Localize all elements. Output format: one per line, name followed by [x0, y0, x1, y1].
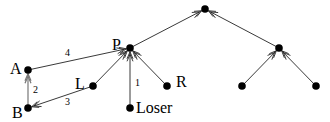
edge-P-to-root	[130, 11, 202, 48]
node-label-a: A	[10, 60, 22, 77]
labels: 4231ABLPLoserR	[10, 36, 187, 121]
edge-label: 1	[135, 77, 140, 88]
node-n4	[312, 82, 320, 90]
node-label-p: P	[112, 36, 121, 53]
edge-label: 4	[65, 47, 70, 58]
node-l	[89, 82, 97, 90]
node-n2	[275, 44, 283, 52]
node-root	[201, 5, 209, 13]
node-label-loser: Loser	[136, 99, 173, 116]
edges	[25, 11, 316, 108]
node-loser	[126, 104, 134, 112]
edge-N4-to-N2	[282, 51, 316, 86]
node-b	[24, 104, 32, 112]
edge-N2-to-root	[208, 11, 279, 48]
edge-label: 2	[33, 84, 38, 95]
node-a	[24, 66, 32, 74]
tree-diagram: 4231ABLPLoserR	[0, 0, 330, 122]
edge-N3-to-N2	[242, 51, 276, 86]
node-p	[126, 44, 134, 52]
node-r	[163, 82, 171, 90]
node-label-l: L	[75, 75, 85, 92]
node-label-b: B	[12, 104, 23, 121]
node-label-r: R	[176, 73, 187, 90]
node-n3	[238, 82, 246, 90]
edge-label: 3	[65, 96, 70, 107]
edge-L-to-P	[93, 51, 127, 86]
